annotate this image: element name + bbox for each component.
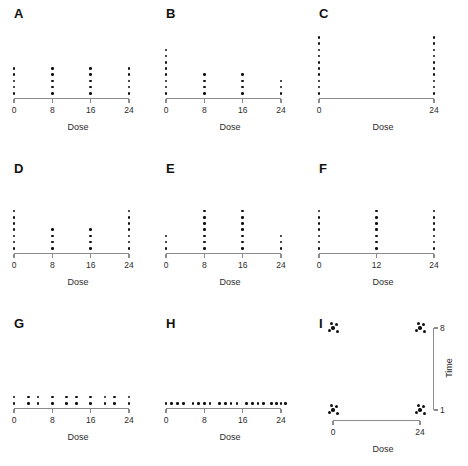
- data-point: [318, 210, 321, 213]
- data-point: [270, 402, 273, 405]
- x-axis-tick: [90, 99, 91, 103]
- data-point: [433, 61, 436, 64]
- x-axis-title-C: Dose: [305, 122, 461, 132]
- x-axis-tick: [242, 409, 243, 413]
- data-point: [241, 73, 244, 76]
- data-point: [75, 396, 78, 399]
- data-point: [280, 247, 283, 250]
- data-point: [13, 216, 16, 219]
- data-point: [37, 402, 40, 405]
- x-axis-tick: [165, 99, 166, 103]
- data-point: [241, 228, 244, 231]
- data-point: [318, 80, 321, 83]
- x-axis-tick: [332, 421, 333, 425]
- data-point: [51, 235, 54, 238]
- x-axis-tick: [52, 99, 53, 103]
- data-point: [13, 222, 16, 225]
- data-point: [433, 86, 436, 89]
- data-point: [241, 92, 244, 95]
- data-point: [318, 228, 321, 231]
- data-point: [433, 36, 436, 39]
- data-point: [89, 402, 92, 405]
- data-point: [375, 247, 378, 250]
- data-point: [318, 235, 321, 238]
- data-point: [165, 61, 168, 64]
- x-axis-tick: [128, 254, 129, 258]
- data-point: [89, 247, 92, 250]
- data-point: [318, 42, 321, 45]
- x-tick-label: 24: [276, 105, 285, 115]
- data-point: [89, 235, 92, 238]
- x-tick-label: 24: [415, 427, 424, 437]
- data-point: [203, 222, 206, 225]
- data-point: [128, 396, 131, 399]
- x-axis-tick: [376, 254, 377, 258]
- x-axis-tick: [318, 99, 319, 103]
- y-tick-label: 1: [440, 405, 445, 415]
- x-axis-tick: [165, 409, 166, 413]
- data-point: [336, 330, 339, 333]
- data-point: [165, 73, 168, 76]
- data-point: [165, 80, 168, 83]
- data-point: [415, 329, 418, 332]
- data-point: [13, 241, 16, 244]
- data-point: [230, 402, 233, 405]
- data-point: [203, 235, 206, 238]
- data-point: [203, 80, 206, 83]
- data-point: [13, 235, 16, 238]
- x-tick-label: 0: [164, 260, 169, 270]
- data-point: [241, 241, 244, 244]
- data-point: [13, 247, 16, 250]
- data-point: [104, 396, 107, 399]
- x-axis-title-I: Dose: [305, 444, 461, 454]
- data-point: [51, 241, 54, 244]
- y-axis-title-I: Time: [444, 358, 454, 378]
- data-point: [375, 241, 378, 244]
- data-point: [257, 402, 260, 405]
- panel-B: B081624Dose: [152, 0, 308, 155]
- x-axis-title-H: Dose: [152, 432, 308, 442]
- data-point: [89, 80, 92, 83]
- data-point: [318, 67, 321, 70]
- data-point: [203, 241, 206, 244]
- y-axis-line-I: [433, 328, 434, 410]
- x-axis-title-F: Dose: [305, 277, 461, 287]
- x-tick-label: 8: [202, 260, 207, 270]
- data-point: [165, 402, 168, 405]
- data-point: [203, 228, 206, 231]
- x-tick-label: 24: [429, 260, 438, 270]
- data-point: [128, 228, 131, 231]
- data-point: [37, 396, 40, 399]
- data-point: [433, 210, 436, 213]
- data-point: [27, 402, 30, 405]
- panel-F: F01224Dose: [305, 155, 461, 310]
- data-point: [275, 402, 278, 405]
- data-point: [375, 235, 378, 238]
- data-point: [51, 73, 54, 76]
- data-point: [433, 67, 436, 70]
- data-point: [241, 222, 244, 225]
- x-axis-tick: [13, 254, 14, 258]
- x-axis-tick: [13, 99, 14, 103]
- x-axis-line-C: [319, 98, 434, 99]
- x-axis-title-E: Dose: [152, 277, 308, 287]
- data-point: [128, 222, 131, 225]
- x-tick-label: 24: [124, 105, 133, 115]
- data-point: [433, 222, 436, 225]
- x-tick-label: 0: [12, 105, 17, 115]
- data-point: [318, 55, 321, 58]
- data-point: [51, 396, 54, 399]
- x-tick-label: 24: [124, 415, 133, 425]
- data-point: [89, 86, 92, 89]
- x-axis-line-A: [14, 98, 129, 99]
- x-tick-label: 16: [238, 105, 247, 115]
- data-point: [197, 402, 200, 405]
- data-point: [331, 326, 334, 329]
- x-axis-tick: [433, 254, 434, 258]
- x-tick-label: 16: [238, 260, 247, 270]
- data-point: [284, 402, 287, 405]
- data-point: [433, 42, 436, 45]
- data-point: [13, 210, 16, 213]
- x-axis-line-I: [333, 420, 420, 421]
- x-axis-tick: [204, 409, 205, 413]
